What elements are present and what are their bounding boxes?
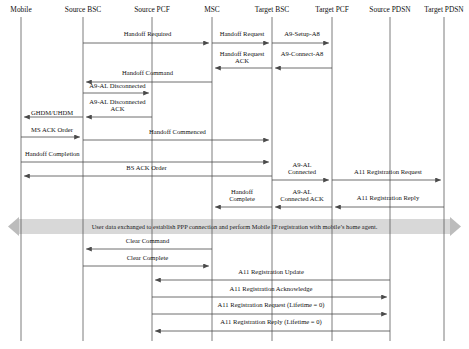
message-label: A11 Registration Reply (357, 194, 420, 201)
message-label: Handoff Required (124, 30, 172, 37)
message-label: A11 Registration Acknowledge (230, 285, 313, 292)
message-label: ACK (111, 105, 125, 112)
band-right-arrow-icon (450, 217, 461, 236)
actor-label-source_bsc: Source BSC (65, 5, 101, 14)
message-label: A11 Registration Request (354, 168, 422, 175)
message-label: A9-Connect-A8 (281, 50, 324, 57)
message-label: MS ACK Order (31, 126, 74, 133)
message-label: Complete (229, 195, 255, 202)
sequence-diagram: User data exchanged to establish PPP con… (0, 0, 469, 349)
message-label: A11 Registration Update (238, 268, 304, 275)
lifelines (21, 17, 444, 341)
actor-label-msc: MSC (204, 5, 220, 14)
message-label: GHDM/UHDM (31, 109, 73, 116)
band-label: User data exchanged to establish PPP con… (92, 223, 378, 230)
actor-label-target_pdsn: Target PDSN (424, 5, 464, 14)
sequence-diagram-canvas: User data exchanged to establish PPP con… (0, 0, 469, 349)
user-data-band: User data exchanged to establish PPP con… (8, 217, 461, 236)
message-label: Clear Complete (127, 254, 169, 261)
message-label: A9-Setup-A8 (284, 30, 320, 37)
message-label: Handoff Request (220, 50, 265, 57)
message-label: A11 Registration Request (Lifetime = 0) (218, 301, 325, 309)
message-label: Handoff Commenced (149, 128, 207, 135)
message-label: A9-AL (292, 161, 311, 168)
message-label: ACK (235, 57, 249, 64)
actor-label-mobile: Mobile (10, 5, 32, 14)
message-label: Connected ACK (280, 195, 324, 202)
actor-label-target_bsc: Target BSC (255, 5, 290, 14)
band-left-arrow-icon (8, 217, 19, 236)
messages: Handoff RequiredHandoff RequestA9-Setup-… (21, 30, 444, 331)
message-label: Handoff Request (220, 30, 265, 37)
message-label: A11 Registration Reply (Lifetime = 0) (220, 318, 321, 326)
actor-label-source_pcf: Source PCF (134, 5, 170, 14)
actor-headers: MobileSource BSCSource PCFMSCTarget BSCT… (10, 5, 464, 14)
message-label: Connected (288, 168, 317, 175)
message-label: Handoff Completion (25, 150, 80, 157)
message-label: Handoff (231, 188, 254, 195)
message-label: A9-AL Disconnected (89, 98, 146, 105)
actor-label-source_pdsn: Source PDSN (369, 5, 411, 14)
actor-label-target_pcf: Target PCF (315, 5, 349, 14)
message-label: A9-AL (292, 188, 311, 195)
message-label: BS ACK Order (126, 164, 167, 171)
message-label: Clear Command (126, 237, 170, 244)
message-label: Handoff Command (122, 69, 174, 76)
message-label: A9-AL Disconnected (89, 82, 146, 89)
